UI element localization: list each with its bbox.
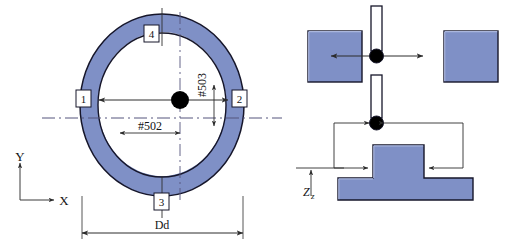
callout-4-label: 4 <box>149 28 155 40</box>
dim-503-label: #503 <box>195 73 209 97</box>
callout-2: 2 <box>232 90 247 107</box>
zz-label-main: Z <box>303 185 310 199</box>
technical-diagram: #502 #503 Dd 1 2 3 4 Y X <box>0 0 507 247</box>
x-axis-label: X <box>59 193 69 208</box>
probe-center-point <box>171 91 189 109</box>
right-view-group: Z z <box>296 6 498 201</box>
boss-outline <box>338 145 473 200</box>
callout-2-label: 2 <box>237 93 243 105</box>
boss-bracket-left <box>334 123 369 168</box>
callout-1-label: 1 <box>81 93 87 105</box>
ring-inner-edge <box>98 33 226 177</box>
probe-tip-upper <box>370 49 384 63</box>
left-view-group: #502 #503 Dd 1 2 3 4 Y X <box>15 8 282 239</box>
probe-stylus-upper <box>371 6 382 51</box>
zz-label-sub: z <box>310 191 315 201</box>
dim-502-label: #502 <box>138 119 162 133</box>
probe-tip-lower <box>370 116 384 130</box>
y-axis-label: Y <box>15 149 25 164</box>
boss-probing-scene: Z z <box>296 75 473 201</box>
callout-1: 1 <box>76 90 91 107</box>
diagram-canvas: #502 #503 Dd 1 2 3 4 Y X <box>0 0 507 247</box>
callout-3-label: 3 <box>159 196 165 208</box>
coordinate-axes: Y X <box>15 149 69 208</box>
probe-stylus-lower <box>371 75 382 118</box>
boss-part <box>338 145 473 200</box>
right-block <box>444 31 498 82</box>
callout-4: 4 <box>144 25 159 42</box>
callout-3: 3 <box>154 193 169 210</box>
horizontal-probing-scene <box>308 6 498 82</box>
dim-Dd-label: Dd <box>155 218 170 232</box>
